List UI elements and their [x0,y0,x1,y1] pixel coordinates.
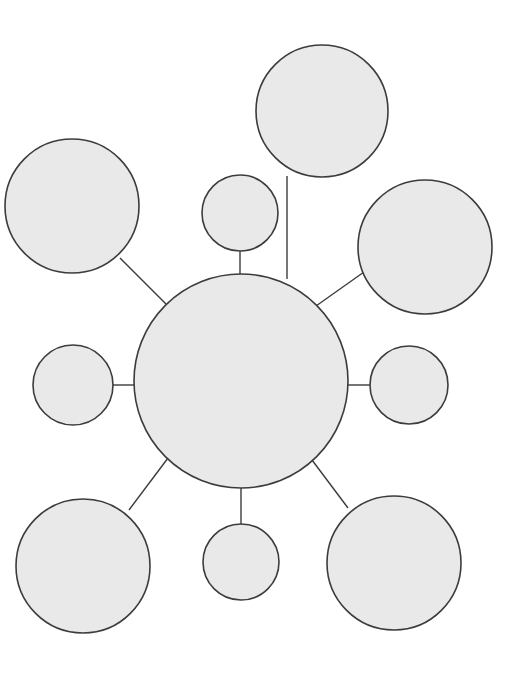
hub-circle[interactable] [134,274,348,488]
node-right-small[interactable] [370,346,448,424]
node-bottom-right-large[interactable] [327,496,461,630]
node-upper-left-large[interactable] [5,139,139,273]
node-right-upper-large-circle[interactable] [358,180,492,314]
node-top-right-large-circle[interactable] [256,45,388,177]
node-left-small[interactable] [33,345,113,425]
node-right-small-circle[interactable] [370,346,448,424]
node-bottom-right-large-circle[interactable] [327,496,461,630]
concept-map-diagram [0,0,523,687]
diagram-page [0,0,523,687]
node-bottom-left-large[interactable] [16,499,150,633]
node-right-upper-large[interactable] [358,180,492,314]
node-bottom-center-small[interactable] [203,524,279,600]
node-top-center-small-circle[interactable] [202,175,278,251]
hub-node[interactable] [134,274,348,488]
node-bottom-center-small-circle[interactable] [203,524,279,600]
node-left-small-circle[interactable] [33,345,113,425]
node-top-center-small[interactable] [202,175,278,251]
node-upper-left-large-circle[interactable] [5,139,139,273]
node-bottom-left-large-circle[interactable] [16,499,150,633]
node-top-right-large[interactable] [256,45,388,177]
